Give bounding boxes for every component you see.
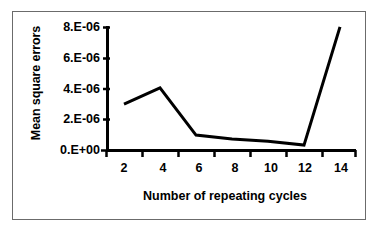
chart-figure: Mean square errors 8.E-06 6.E-06 4.E-06 … [0, 0, 379, 232]
plot-area [0, 0, 379, 232]
data-series-line [124, 27, 340, 145]
